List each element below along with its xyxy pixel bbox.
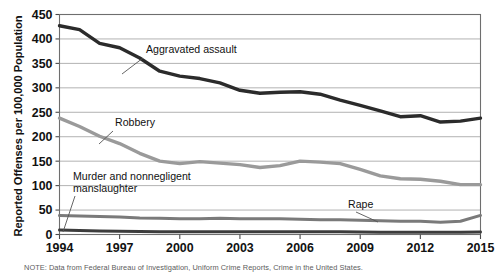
x-tick-label: 1997 xyxy=(106,241,134,255)
murder-label-line1: Murder and nonnegligent xyxy=(73,170,191,182)
chart-svg: 0501001502002503003504004501994199720002… xyxy=(0,0,498,272)
y-tick-label: 150 xyxy=(32,155,53,169)
series-line-rape xyxy=(60,215,481,222)
chart-note: NOTE: Data from Federal Bureau of Invest… xyxy=(24,263,363,272)
robbery-label: Robbery xyxy=(115,116,156,128)
x-tick-label: 2000 xyxy=(166,241,194,255)
rape-label: Rape xyxy=(348,198,373,210)
murder-label-line1-leader xyxy=(63,196,75,232)
x-tick-label: 2003 xyxy=(226,241,254,255)
x-tick-label: 2006 xyxy=(286,241,314,255)
y-tick-label: 350 xyxy=(32,57,53,71)
y-tick-label: 100 xyxy=(32,179,53,193)
y-tick-label: 50 xyxy=(39,203,53,217)
y-tick-label: 300 xyxy=(32,81,53,95)
y-tick-label: 200 xyxy=(32,130,53,144)
series-line-murder-and-nonnegligent-manslaughter xyxy=(60,230,481,232)
murder-label-line2: manslaughter xyxy=(73,182,138,194)
x-tick-label: 2009 xyxy=(346,241,374,255)
aggravated-assault-label-leader xyxy=(122,58,143,74)
crime-rate-line-chart: Reported Offenses per 100,000 Population… xyxy=(0,0,498,272)
y-tick-label: 250 xyxy=(32,106,53,120)
y-tick-label: 0 xyxy=(46,228,53,242)
aggravated-assault-label: Aggravated assault xyxy=(146,43,237,55)
plot-area: 0501001502002503003504004501994199720002… xyxy=(0,0,498,272)
x-tick-label: 1994 xyxy=(46,241,74,255)
y-tick-label: 450 xyxy=(32,8,53,22)
x-tick-label: 2012 xyxy=(407,241,435,255)
x-tick-label: 2015 xyxy=(467,241,495,255)
y-tick-label: 400 xyxy=(32,32,53,46)
